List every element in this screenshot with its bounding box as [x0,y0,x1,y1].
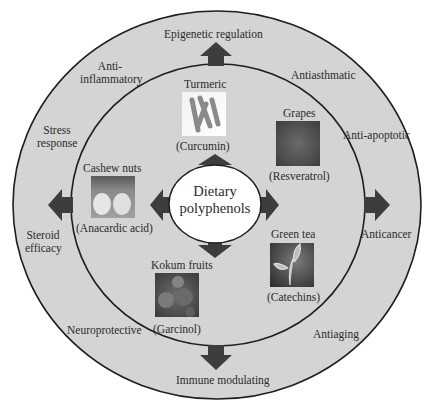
effect-anticancer: Anticancer [361,228,411,241]
turmeric-photo [182,92,226,136]
source-kokum-compound: (Garcinol) [153,323,201,336]
effect-steroid-efficacy: Steroid efficacy [25,229,61,255]
polyphenol-diagram: Dietary polyphenols Turmeric (Curcumin) … [0,0,431,410]
kokum-photo [155,273,199,317]
source-grapes-compound: (Resveratrol) [269,170,330,183]
effect-stress-response-line2: response [37,137,77,150]
effect-epigenetic-regulation: Epigenetic regulation [164,28,263,41]
effect-anti-inflammatory: Anti- inflammatory [80,60,140,86]
effect-steroid-efficacy-line2: efficacy [25,242,61,255]
source-turmeric-compound: (Curcumin) [176,140,230,153]
effect-neuroprotective: Neuroprotective [67,324,142,337]
source-green-tea-compound: (Catechins) [267,291,320,304]
effect-stress-response: Stress response [37,124,77,150]
source-cashew-compound: (Anacardic acid) [76,222,153,235]
grapes-photo [276,121,320,166]
effect-antiaging: Antiaging [313,328,359,341]
center-label: Dietary polyphenols [168,183,262,217]
source-cashew-name: Cashew nuts [83,162,141,175]
green-tea-photo [270,243,314,287]
effect-immune-modulating: Immune modulating [176,374,270,387]
cashew-photo [91,176,135,218]
effect-anti-inflammatory-line2: inflammatory [80,73,140,86]
source-grapes-name: Grapes [283,107,316,120]
effect-anti-apoptotic: Anti-apoptotic [343,129,410,142]
source-turmeric-name: Turmeric [184,78,226,91]
center-label-line1: Dietary [168,183,262,200]
effect-antiasthmatic: Antiasthmatic [291,69,356,82]
effect-stress-response-line1: Stress [37,124,77,137]
center-label-line2: polyphenols [168,200,262,217]
effect-anti-inflammatory-line1: Anti- [80,60,140,73]
effect-steroid-efficacy-line1: Steroid [25,229,61,242]
source-green-tea-name: Green tea [271,228,315,241]
source-kokum-name: Kokum fruits [151,259,213,272]
